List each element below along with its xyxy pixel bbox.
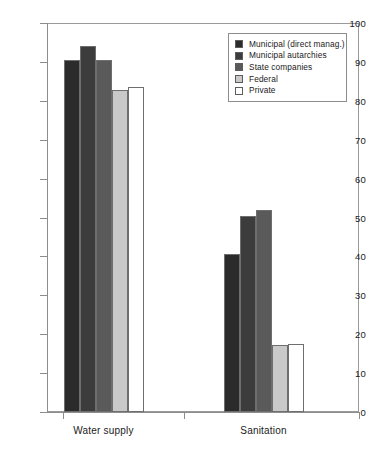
- legend-swatch-icon: [235, 87, 243, 95]
- x-axis-line: [47, 412, 360, 413]
- legend-swatch-icon: [235, 52, 243, 60]
- legend-item-label: Private: [249, 86, 276, 95]
- x-axis-tick: [184, 412, 185, 419]
- y-axis-tick: [40, 179, 47, 180]
- legend-item: State companies: [235, 62, 340, 73]
- legend-item-label: Municipal (direct manag.): [249, 40, 345, 49]
- y-axis-tick: [40, 256, 47, 257]
- y-axis-tick: [40, 218, 47, 219]
- bar: [240, 216, 256, 412]
- bar-chart: 0102030405060708090100 Water supplySanit…: [0, 0, 377, 462]
- y-axis-tick: [40, 373, 47, 374]
- y-axis-tick: [40, 62, 47, 63]
- legend-swatch-icon: [235, 40, 243, 48]
- legend-item: Federal: [235, 74, 340, 85]
- legend-item-label: Municipal autarchies: [249, 51, 327, 60]
- y-axis-tick: [40, 412, 47, 413]
- y-axis-tick: [40, 140, 47, 141]
- y-axis-tick: [40, 101, 47, 102]
- bar: [224, 254, 240, 412]
- bar: [112, 90, 128, 412]
- legend-item: Municipal (direct manag.): [235, 39, 340, 50]
- bar: [256, 210, 272, 412]
- y-axis-tick-label: 0: [361, 407, 366, 418]
- bar: [288, 344, 304, 412]
- bar: [64, 60, 80, 412]
- x-axis-tick: [63, 412, 64, 419]
- bar: [128, 87, 144, 412]
- legend-item-label: State companies: [249, 63, 312, 72]
- chart-legend: Municipal (direct manag.)Municipal autar…: [228, 33, 347, 102]
- bar: [96, 60, 112, 412]
- x-axis-category-label: Water supply: [73, 425, 133, 436]
- x-axis-category-label: Sanitation: [240, 425, 286, 436]
- legend-item: Municipal autarchies: [235, 51, 340, 62]
- legend-swatch-icon: [235, 63, 243, 71]
- legend-swatch-icon: [235, 75, 243, 83]
- x-axis-tick: [359, 412, 360, 419]
- y-axis-tick: [40, 295, 47, 296]
- legend-item: Private: [235, 85, 340, 96]
- bar: [80, 46, 96, 412]
- bar: [272, 345, 288, 412]
- legend-item-label: Federal: [249, 75, 278, 84]
- y-axis-tick: [40, 334, 47, 335]
- y-axis-tick: [40, 23, 47, 24]
